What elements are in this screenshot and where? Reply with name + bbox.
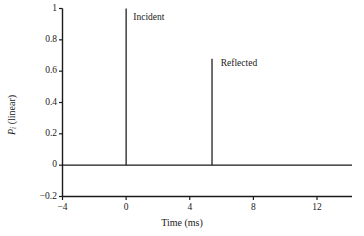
annotation-reflected: Reflected: [221, 59, 257, 69]
x-tick-label: 4: [170, 203, 210, 213]
y-axis-title: Pi (linear): [2, 60, 22, 170]
x-tick-label: 0: [106, 203, 146, 213]
x-tick-label: −4: [43, 203, 83, 213]
y-tick-label: 0.2: [20, 129, 57, 139]
y-axis-title-subscript: i: [9, 127, 18, 129]
x-tick-label: 12: [297, 203, 337, 213]
data-trace-group: [63, 9, 353, 166]
y-tick-label: 1: [20, 4, 57, 14]
x-tick-label: 8: [233, 203, 273, 213]
y-axis-title-symbol: P: [6, 129, 17, 135]
chart-figure: −0.200.20.40.60.81 −404812 Pi (linear) T…: [0, 0, 364, 236]
y-tick-label: 0.8: [20, 35, 57, 45]
x-axis-title: Time (ms): [0, 218, 364, 228]
y-axis-title-unit: (linear): [6, 95, 17, 127]
y-tick-label: −0.2: [20, 192, 57, 202]
y-tick-label: 0.6: [20, 66, 57, 76]
axes-group: [63, 9, 353, 197]
pulse-response-trace: [63, 9, 353, 166]
y-tick-label: 0.4: [20, 98, 57, 108]
y-tick-label: 0: [20, 160, 57, 170]
annotation-incident: Incident: [133, 13, 164, 23]
